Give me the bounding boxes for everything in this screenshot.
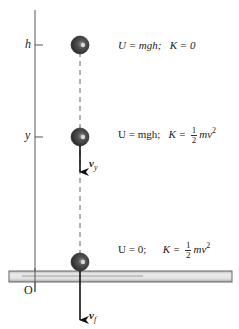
kinetic-prefix-bottom: K = xyxy=(163,243,183,255)
velocity-label-vy: vy xyxy=(89,157,97,172)
ground-bar xyxy=(9,271,232,282)
kinetic-tail-bottom: mv xyxy=(193,243,206,255)
origin-label: O xyxy=(24,283,33,298)
velocity-label-vf: vf xyxy=(89,309,96,324)
potential-energy-bottom: U = 0; xyxy=(118,243,146,255)
potential-energy-top: U = mgh; xyxy=(118,39,161,51)
kinetic-value-top: 0 xyxy=(190,39,196,51)
energy-eq-top: U = mgh; K = 0 xyxy=(118,40,196,51)
exponent-bottom: 2 xyxy=(206,241,210,250)
potential-energy-middle: U = mgh; xyxy=(118,128,160,140)
ball-top xyxy=(71,36,89,54)
fraction-half-middle: 12 xyxy=(191,126,198,145)
kinetic-prefix-top: K = xyxy=(170,39,190,51)
axis-label-h: h xyxy=(25,37,31,52)
energy-eq-bottom: U = 0; K = 12mv2 xyxy=(118,241,210,260)
kinetic-prefix-middle: K = xyxy=(169,128,189,140)
fraction-half-bottom: 12 xyxy=(185,241,192,260)
kinetic-tail-middle: mv xyxy=(199,128,212,140)
energy-eq-middle: U = mgh; K = 12mv2 xyxy=(118,126,216,145)
ball-middle xyxy=(71,128,89,146)
exponent-middle: 2 xyxy=(212,126,216,135)
ball-bottom xyxy=(71,253,89,271)
axis-label-y: y xyxy=(25,128,30,143)
